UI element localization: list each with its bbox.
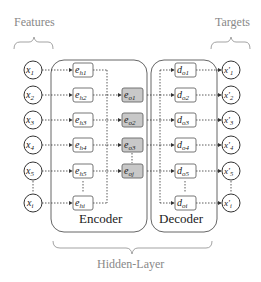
encoder-label: Encoder [79, 211, 123, 226]
input-nodes [24, 61, 42, 212]
hidden-layer-brace [53, 241, 212, 254]
autoencoder-diagram: Features Targets Encoder Decoder Hidden-… [0, 0, 261, 282]
decoder-label: Decoder [159, 211, 204, 226]
target-nodes [222, 61, 240, 212]
targets-label: Targets [215, 15, 250, 29]
features-brace [14, 37, 53, 49]
targets-brace [211, 37, 250, 49]
hidden-layer-label: Hidden-Layer [97, 257, 164, 271]
features-label: Features [14, 15, 55, 29]
